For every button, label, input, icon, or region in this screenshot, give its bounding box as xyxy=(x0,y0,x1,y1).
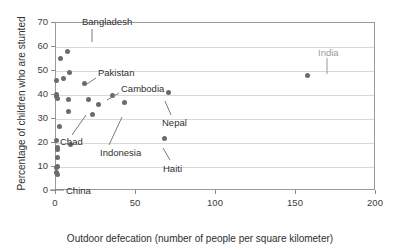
data-point-pakistan xyxy=(82,81,87,86)
y-tick-label: 0 xyxy=(24,185,48,195)
data-point xyxy=(96,102,101,107)
annotation-label-cambodia: Cambodia xyxy=(121,84,164,94)
x-tick-label: 50 xyxy=(115,198,155,208)
data-point xyxy=(61,76,66,81)
y-tick-label: 50 xyxy=(24,65,48,75)
x-axis-title: Outdoor defecation (number of people per… xyxy=(0,233,400,244)
x-tick-label: 150 xyxy=(275,198,315,208)
x-tick-mark xyxy=(55,190,56,194)
x-tick-mark xyxy=(215,190,216,194)
x-tick-mark xyxy=(375,190,376,194)
data-point xyxy=(86,97,91,102)
data-point-india xyxy=(305,73,310,78)
annotation-label-china: China xyxy=(66,186,91,196)
data-point-nepal xyxy=(166,90,171,95)
x-tick-label: 200 xyxy=(355,198,395,208)
data-point xyxy=(55,172,60,177)
y-tick-mark xyxy=(51,118,55,119)
y-tick-label: 20 xyxy=(24,137,48,147)
data-point-cambodia xyxy=(110,93,115,98)
annotation-label-chad: Chad xyxy=(60,137,83,147)
data-point xyxy=(66,97,71,102)
y-tick-mark xyxy=(51,70,55,71)
x-tick-mark xyxy=(295,190,296,194)
data-point xyxy=(67,70,72,75)
data-point xyxy=(55,155,60,160)
y-tick-mark xyxy=(51,46,55,47)
data-point-bangladesh xyxy=(65,49,70,54)
data-point-chad xyxy=(66,109,71,114)
annotation-label-indonesia: Indonesia xyxy=(100,148,141,158)
annotation-label-pakistan: Pakistan xyxy=(98,68,134,78)
data-point xyxy=(54,78,59,83)
y-tick-label: 60 xyxy=(24,41,48,51)
y-tick-label: 10 xyxy=(24,161,48,171)
x-tick-mark xyxy=(135,190,136,194)
gridline xyxy=(56,95,374,96)
data-point xyxy=(57,124,62,129)
annotation-label-haiti: Haiti xyxy=(163,164,182,174)
x-tick-label: 100 xyxy=(195,198,235,208)
y-tick-label: 70 xyxy=(24,17,48,27)
y-axis-title: Percentage of children who are stunted xyxy=(16,9,27,199)
y-tick-mark xyxy=(51,142,55,143)
gridline xyxy=(56,167,374,168)
annotation-label-nepal: Nepal xyxy=(162,118,187,128)
data-point xyxy=(55,147,60,152)
data-point-haiti xyxy=(162,136,167,141)
scatter-plot-figure: 010203040506070 050100150200 BangladeshP… xyxy=(0,0,400,250)
y-tick-label: 40 xyxy=(24,89,48,99)
y-tick-mark xyxy=(51,94,55,95)
y-tick-mark xyxy=(51,22,55,23)
annotation-label-bangladesh: Bangladesh xyxy=(82,17,132,27)
gridline xyxy=(56,143,374,144)
y-tick-label: 30 xyxy=(24,113,48,123)
annotation-label-india: India xyxy=(318,48,339,58)
x-tick-label: 0 xyxy=(35,198,75,208)
data-point xyxy=(54,138,59,143)
data-point xyxy=(58,56,63,61)
data-point-indonesia xyxy=(90,112,95,117)
data-point xyxy=(122,100,127,105)
gridline xyxy=(56,119,374,120)
y-tick-mark xyxy=(51,166,55,167)
data-point xyxy=(55,96,60,101)
